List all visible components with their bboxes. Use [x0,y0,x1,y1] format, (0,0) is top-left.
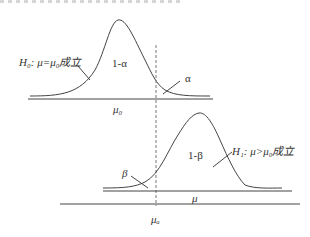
mu0-axis-label: μ₀ [113,104,122,115]
beta-label: β [122,168,127,179]
h0-leader-line [78,66,90,80]
mu-axis-label: μ [192,193,198,204]
hypothesis-test-diagram: H₀: μ=μ₀成立 1-α α μ₀ 1-β H₁: μ>μ₀成立 β μ μ… [0,0,310,237]
critical-value-label: μₐ [151,214,160,225]
h1-hypothesis-label: H₁: μ>μ₀成立 [232,146,294,157]
h0-hypothesis-label: H₀: μ=μ₀成立 [19,57,81,68]
alpha-label: α [185,73,191,84]
h0-confidence-label: 1-α [112,58,127,69]
alpha-leader-line [163,81,180,94]
diagram-graphic [0,0,310,237]
h1-power-label: 1-β [188,150,203,161]
